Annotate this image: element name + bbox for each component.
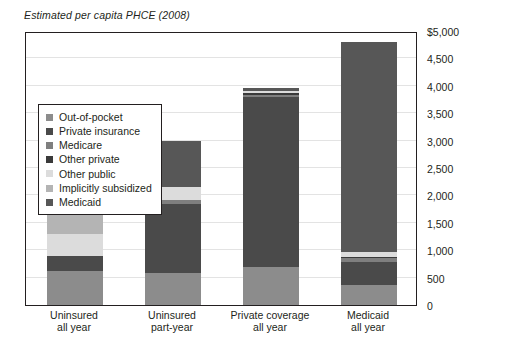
legend-item-label: Private insurance	[59, 126, 140, 137]
chart-legend: Out-of-pocketPrivate insuranceMedicareOt…	[38, 104, 162, 215]
legend-swatch-icon	[46, 185, 53, 192]
legend-item-label: Out-of-pocket	[59, 112, 123, 123]
x-axis-tick-label-line1: Uninsured	[18, 309, 130, 321]
bar-segment	[341, 285, 397, 305]
y-axis-tick-label: 4,000	[427, 81, 453, 93]
x-axis-category-label: Medicaidall year	[312, 309, 424, 334]
legend-item: Other private	[46, 153, 152, 167]
x-axis-labels: Uninsuredall yearUninsuredpart-yearPriva…	[25, 309, 417, 343]
legend-swatch-icon	[46, 114, 53, 121]
bar-segment	[47, 256, 103, 271]
y-axis-labels: $5,0004,5004,0003,5003,0002,5002,0001,50…	[421, 32, 529, 306]
y-axis-tick-label: 4,500	[427, 53, 453, 65]
x-axis-tick-label-line2: all year	[18, 321, 130, 333]
legend-item-label: Implicitly subsidized	[59, 183, 152, 194]
bar-stack	[47, 211, 103, 305]
y-axis-tick-label: 3,500	[427, 108, 453, 120]
legend-item-label: Medicaid	[59, 197, 101, 208]
bar-segment	[145, 273, 201, 305]
legend-item: Implicitly subsidized	[46, 181, 152, 195]
y-axis-tick-label: 2,000	[427, 190, 453, 202]
legend-swatch-icon	[46, 199, 53, 206]
bar-segment	[243, 97, 299, 266]
y-axis-tick-label: 0	[427, 300, 433, 312]
legend-swatch-icon	[46, 170, 53, 177]
x-axis-category-label: Private coverageall year	[214, 309, 326, 334]
legend-item: Medicaid	[46, 195, 152, 209]
y-axis-tick-label: $5,000	[427, 26, 459, 38]
bar-segment	[47, 234, 103, 255]
x-axis-tick-label-line1: Medicaid	[312, 309, 424, 321]
legend-swatch-icon	[46, 128, 53, 135]
x-axis-tick-label-line2: all year	[214, 321, 326, 333]
legend-item: Private insurance	[46, 124, 152, 138]
y-axis-tick-label: 1,500	[427, 218, 453, 230]
chart-title: Estimated per capita PHCE (2008)	[24, 9, 190, 21]
x-axis-tick-label-line2: all year	[312, 321, 424, 333]
bar-segment	[341, 42, 397, 252]
y-axis-tick-label: 500	[427, 273, 445, 285]
x-axis-tick-label-line2: part-year	[116, 321, 228, 333]
bar-stack	[243, 88, 299, 305]
legend-swatch-icon	[46, 156, 53, 163]
legend-swatch-icon	[46, 142, 53, 149]
x-axis-tick-label-line1: Private coverage	[214, 309, 326, 321]
x-axis-category-label: Uninsuredpart-year	[116, 309, 228, 334]
chart-container: Estimated per capita PHCE (2008) $5,0004…	[0, 0, 532, 344]
bar-segment	[47, 271, 103, 305]
y-axis-tick-label: 3,000	[427, 136, 453, 148]
y-axis-tick-label: 2,500	[427, 163, 453, 175]
legend-item-label: Medicare	[59, 140, 102, 151]
legend-item: Other public	[46, 167, 152, 181]
x-axis-category-label: Uninsuredall year	[18, 309, 130, 334]
bar-stack	[341, 42, 397, 305]
legend-item: Medicare	[46, 138, 152, 152]
bar-segment	[243, 267, 299, 305]
legend-item-label: Other public	[59, 169, 116, 180]
y-axis-tick-label: 1,000	[427, 245, 453, 257]
bar-segment	[341, 262, 397, 286]
x-axis-tick-label-line1: Uninsured	[116, 309, 228, 321]
legend-item-label: Other private	[59, 154, 120, 165]
legend-item: Out-of-pocket	[46, 110, 152, 124]
